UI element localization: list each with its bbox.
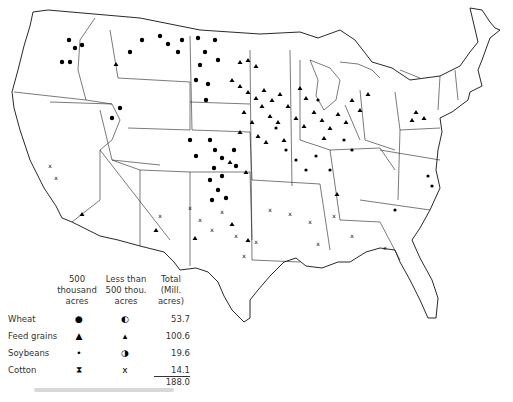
crop-label: Cotton	[8, 365, 36, 375]
legend-header-total: Total (Mill. acres)	[150, 274, 192, 307]
svg-text:x: x	[288, 210, 292, 217]
legend-grand-total-row: 188.0	[8, 376, 208, 388]
svg-text:x: x	[234, 232, 238, 239]
header-line: 500	[52, 274, 102, 285]
wheat-large-icon: ●	[72, 313, 86, 325]
legend-header-large: 500 thousand acres	[52, 274, 102, 307]
crop-label: Feed grains	[8, 331, 57, 341]
svg-text:x: x	[254, 238, 258, 245]
svg-text:x: x	[350, 232, 354, 239]
cotton-large-icon: ⧗	[72, 364, 86, 376]
header-line: 500 thou.	[98, 285, 154, 296]
header-line: Total	[150, 274, 192, 285]
crop-total: 19.6	[154, 347, 190, 359]
crop-label: Soybeans	[8, 348, 49, 358]
svg-text:x: x	[383, 244, 387, 251]
svg-text:x: x	[188, 204, 192, 211]
svg-text:x: x	[242, 252, 246, 259]
cotton-small-icon: x	[118, 364, 132, 376]
legend-row-cotton: Cotton ⧗ x 14.1	[8, 364, 208, 376]
figure-caption-blurred	[34, 388, 174, 394]
crop-total: 53.7	[154, 313, 190, 325]
svg-text:x: x	[268, 206, 272, 213]
svg-text:x: x	[308, 218, 312, 225]
feed-grain-symbols	[80, 58, 427, 242]
header-line: acres	[52, 296, 102, 307]
header-line: acres)	[150, 296, 192, 307]
wheat-symbols	[60, 34, 238, 202]
header-line: thousand	[52, 285, 102, 296]
wheat-small-icon: ◐	[118, 313, 132, 325]
crop-label: Wheat	[8, 314, 36, 324]
svg-text:x: x	[316, 240, 320, 247]
crop-symbols: xxx xxx xxx xxx xxx xx	[48, 34, 433, 259]
crop-total: 100.6	[154, 330, 190, 342]
header-line: Less than	[98, 274, 154, 285]
soybeans-large-icon: •	[72, 347, 86, 359]
header-line: acres	[98, 296, 154, 307]
svg-text:x: x	[198, 216, 202, 223]
grand-total: 188.0	[154, 376, 190, 388]
legend-header-small: Less than 500 thou. acres	[98, 274, 154, 307]
soybeans-small-icon: ◑	[118, 347, 132, 359]
legend-row-wheat: Wheat ● ◐ 53.7	[8, 313, 208, 325]
svg-text:x: x	[48, 162, 52, 169]
svg-text:x: x	[210, 226, 214, 233]
legend-row-feed-grains: Feed grains ▲ ▴ 100.6	[8, 330, 208, 342]
feed-grains-large-icon: ▲	[72, 330, 86, 342]
svg-text:x: x	[158, 212, 162, 219]
svg-text:x: x	[54, 174, 58, 181]
cotton-symbols: xxx xxx xxx xxx xxx xx	[48, 162, 387, 259]
header-line: (Mill.	[150, 285, 192, 296]
svg-text:x: x	[332, 212, 336, 219]
legend-row-soybeans: Soybeans • ◑ 19.6	[8, 347, 208, 359]
feed-grains-small-icon: ▴	[118, 330, 132, 342]
state-boundaries	[14, 18, 458, 266]
svg-text:x: x	[220, 208, 224, 215]
map-legend: 500 thousand acres Less than 500 thou. a…	[0, 270, 210, 380]
